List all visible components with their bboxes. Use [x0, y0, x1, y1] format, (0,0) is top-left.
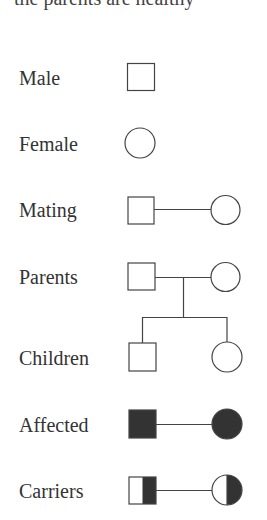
child-female-circle-icon: [212, 342, 242, 372]
parents-female-circle-icon: [211, 263, 240, 292]
parents-male-square-icon: [128, 263, 155, 290]
pedigree-symbols: [0, 0, 267, 520]
carrier-male-square-fill: [143, 477, 157, 504]
affected-female-circle-icon: [212, 409, 242, 439]
affected-symbol: [129, 409, 242, 439]
children-symbol: [129, 342, 242, 372]
mating-female-circle-icon: [211, 196, 240, 225]
female-circle-icon: [125, 128, 155, 158]
child-male-square-icon: [129, 343, 156, 371]
parents-symbol: [128, 263, 240, 344]
affected-male-square-icon: [129, 410, 156, 438]
carriers-symbol: [129, 475, 242, 505]
carrier-female-half-fill: [227, 475, 242, 505]
male-square-icon: [128, 64, 155, 91]
mating-symbol: [128, 196, 240, 225]
mating-male-square-icon: [128, 197, 154, 224]
